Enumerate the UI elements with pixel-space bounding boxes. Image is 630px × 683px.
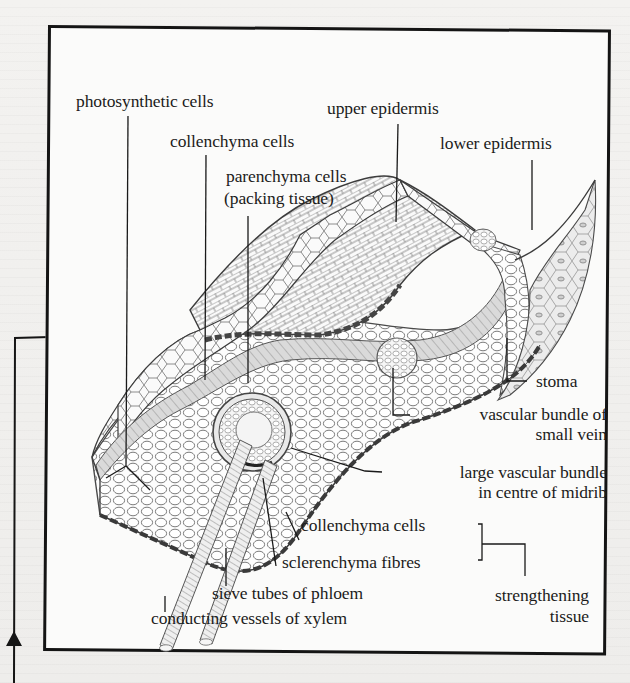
label-stoma: stoma xyxy=(536,371,577,391)
label-vascular-bundle-small-vein-1: vascular bundle of xyxy=(480,404,607,424)
label-lower-epidermis: lower epidermis xyxy=(440,133,552,153)
label-sieve-tubes-of-phloem: sieve tubes of phloem xyxy=(212,583,363,603)
label-strengthening: strengthening xyxy=(495,585,589,605)
label-vascular-bundle-small-vein-2: small vein xyxy=(536,424,607,444)
label-large-vascular-bundle-2: in centre of midrib xyxy=(478,482,607,502)
label-parenchyma-cells: parenchyma cells xyxy=(226,166,346,186)
label-tissue: tissue xyxy=(550,606,589,626)
label-collenchyma-cells-bottom: collenchyma cells xyxy=(301,515,425,535)
label-packing-tissue: (packing tissue) xyxy=(224,188,334,208)
label-upper-epidermis: upper epidermis xyxy=(327,98,439,118)
label-conducting-vessels-of-xylem: conducting vessels of xylem xyxy=(151,608,347,628)
label-collenchyma-cells-top: collenchyma cells xyxy=(170,131,294,151)
label-large-vascular-bundle-1: large vascular bundle xyxy=(460,462,607,482)
label-sclerenchyma-fibres: sclerenchyma fibres xyxy=(282,552,421,572)
label-photosynthetic-cells: photosynthetic cells xyxy=(76,91,214,111)
